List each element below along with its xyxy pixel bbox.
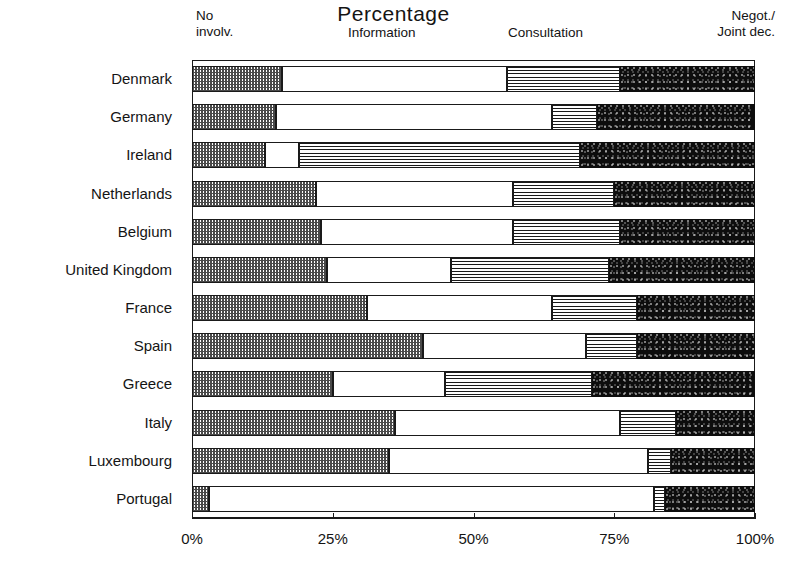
legend-label-information: Information: [348, 25, 416, 41]
legend-label-no-involv: No involv.: [196, 8, 233, 40]
bar-row-united-kingdom: [192, 257, 755, 283]
bar-segment-no-involv: [192, 219, 321, 245]
bar-row-germany: [192, 104, 755, 130]
bar-row-greece: [192, 371, 755, 397]
bar-segment-negot-joint-dec: [580, 142, 755, 168]
bar-segment-negot-joint-dec: [620, 66, 755, 92]
y-axis-label-germany: Germany: [110, 104, 172, 130]
bar-segment-information: [389, 448, 648, 474]
x-axis-label-50pct: 50%: [458, 530, 488, 547]
bar-segment-information: [209, 486, 654, 512]
bar-segment-information: [316, 181, 513, 207]
x-axis-tick-75pct: [614, 513, 615, 519]
legend-label-consultation: Consultation: [508, 25, 583, 41]
y-axis-label-denmark: Denmark: [111, 66, 172, 92]
bar-segment-consultation: [586, 333, 637, 359]
bar-segment-negot-joint-dec: [620, 219, 755, 245]
bar-segment-no-involv: [192, 410, 395, 436]
bar-segment-consultation: [648, 448, 671, 474]
y-axis-category-labels: DenmarkGermanyIrelandNetherlandsBelgiumU…: [0, 60, 182, 518]
chart-title: Percentage: [0, 2, 787, 26]
bar-segment-no-involv: [192, 142, 265, 168]
x-axis-tick-25pct: [333, 513, 334, 519]
y-axis-label-netherlands: Netherlands: [91, 181, 172, 207]
x-axis: 0%25%50%75%100%: [192, 518, 755, 564]
bar-segment-consultation: [507, 66, 620, 92]
bar-segment-consultation: [513, 219, 620, 245]
bar-segment-negot-joint-dec: [597, 104, 755, 130]
bar-segment-no-involv: [192, 371, 333, 397]
bar-row-denmark: [192, 66, 755, 92]
bar-segment-consultation: [654, 486, 665, 512]
x-axis-label-25pct: 25%: [318, 530, 348, 547]
bar-segment-no-involv: [192, 181, 316, 207]
bar-segment-consultation: [552, 295, 636, 321]
y-axis-label-italy: Italy: [144, 410, 172, 436]
y-axis-label-greece: Greece: [123, 371, 172, 397]
bar-row-netherlands: [192, 181, 755, 207]
bar-segment-negot-joint-dec: [671, 448, 755, 474]
y-axis-label-portugal: Portugal: [116, 486, 172, 512]
x-axis-tick-50pct: [474, 513, 475, 519]
y-axis-label-united-kingdom: United Kingdom: [65, 257, 172, 283]
bar-row-france: [192, 295, 755, 321]
bar-segment-information: [327, 257, 451, 283]
bar-segment-no-involv: [192, 257, 327, 283]
bar-row-italy: [192, 410, 755, 436]
bar-segment-no-involv: [192, 66, 282, 92]
plot-area: [192, 60, 755, 518]
bar-segment-consultation: [451, 257, 609, 283]
bar-row-luxembourg: [192, 448, 755, 474]
bar-segment-negot-joint-dec: [637, 295, 755, 321]
bar-row-belgium: [192, 219, 755, 245]
bar-segment-consultation: [299, 142, 581, 168]
bar-row-spain: [192, 333, 755, 359]
bar-segment-consultation: [552, 104, 597, 130]
bar-segment-information: [395, 410, 620, 436]
bar-segment-information: [265, 142, 299, 168]
y-axis-label-luxembourg: Luxembourg: [89, 448, 172, 474]
x-axis-tick-0pct: [192, 513, 193, 519]
bar-segment-no-involv: [192, 486, 209, 512]
bar-segment-information: [276, 104, 552, 130]
bar-segment-negot-joint-dec: [614, 181, 755, 207]
bar-segment-no-involv: [192, 104, 276, 130]
x-axis-label-75pct: 75%: [599, 530, 629, 547]
x-axis-label-0pct: 0%: [181, 530, 203, 547]
bar-segment-information: [423, 333, 586, 359]
bar-segment-consultation: [513, 181, 614, 207]
bar-segment-information: [321, 219, 512, 245]
bar-segment-consultation: [445, 371, 591, 397]
bar-segment-negot-joint-dec: [609, 257, 755, 283]
bar-segment-information: [367, 295, 553, 321]
bar-segment-information: [333, 371, 446, 397]
bar-segment-no-involv: [192, 333, 423, 359]
bar-row-ireland: [192, 142, 755, 168]
y-axis-label-spain: Spain: [134, 333, 172, 359]
bar-segment-negot-joint-dec: [592, 371, 755, 397]
bar-row-portugal: [192, 486, 755, 512]
y-axis-label-france: France: [125, 295, 172, 321]
y-axis-label-belgium: Belgium: [118, 219, 172, 245]
bar-segment-negot-joint-dec: [637, 333, 755, 359]
x-axis-label-100pct: 100%: [736, 530, 774, 547]
bar-segment-negot-joint-dec: [676, 410, 755, 436]
bar-segment-no-involv: [192, 295, 367, 321]
bar-segment-information: [282, 66, 507, 92]
y-axis-label-ireland: Ireland: [126, 142, 172, 168]
x-axis-tick-100pct: [755, 513, 756, 519]
legend-label-negot-joint-dec: Negot./ Joint dec.: [717, 8, 775, 40]
bar-segment-consultation: [620, 410, 676, 436]
bar-segment-negot-joint-dec: [665, 486, 755, 512]
bar-segment-no-involv: [192, 448, 389, 474]
